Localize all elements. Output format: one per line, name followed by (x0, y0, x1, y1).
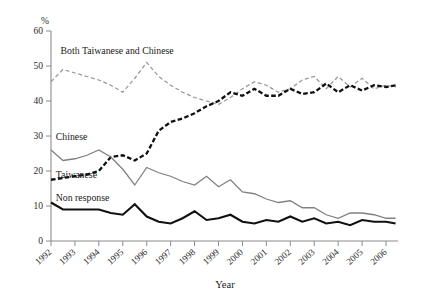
x-tick-group: 1992199319941995199619971998199920002001… (33, 241, 389, 267)
y-tick-group: 0102030405060 (34, 26, 52, 246)
line-chart: 0102030405060 % 199219931994199519961997… (0, 0, 427, 299)
series-line (51, 150, 396, 218)
y-tick-label: 30 (34, 131, 44, 141)
series-annotation-label: Both Taiwanese and Chinese (61, 45, 175, 56)
x-tick-label: 1998 (177, 247, 198, 267)
y-tick-label: 10 (34, 201, 44, 211)
series-line (51, 203, 396, 226)
x-tick-label: 2002 (273, 247, 294, 267)
y-axis-unit-label: % (41, 16, 49, 26)
x-tick-label: 1999 (201, 247, 222, 267)
x-tick-label: 1993 (57, 247, 78, 267)
y-tick-label: 60 (34, 26, 44, 36)
series-annotation-label: Taiwanese (56, 169, 98, 180)
x-tick-label: 2001 (249, 247, 270, 267)
series-line (51, 84, 396, 180)
x-tick-label: 1994 (81, 247, 102, 267)
y-tick-label: 0 (38, 236, 43, 246)
x-tick-label: 1992 (33, 247, 54, 267)
x-tick-label: 1997 (153, 247, 174, 267)
y-tick-label: 50 (34, 61, 44, 71)
chart-container: 0102030405060 % 199219931994199519961997… (0, 0, 427, 299)
x-tick-label: 2003 (296, 247, 317, 267)
x-tick-label: 2005 (344, 247, 365, 267)
annotation-group: Both Taiwanese and ChineseChineseTaiwane… (56, 45, 175, 203)
x-axis: 1992199319941995199619971998199920002001… (33, 241, 398, 290)
y-tick-label: 40 (34, 96, 44, 106)
x-axis-title: Year (215, 279, 235, 290)
series-annotation-label: Chinese (56, 131, 88, 142)
x-tick-label: 2000 (225, 247, 246, 267)
x-tick-label: 1995 (105, 247, 126, 267)
y-tick-label: 20 (34, 166, 44, 176)
x-tick-label: 2004 (320, 247, 341, 267)
series-annotation-label: Non response (56, 192, 110, 203)
x-tick-label: 2006 (368, 247, 389, 267)
x-tick-label: 1996 (129, 247, 150, 267)
y-axis: 0102030405060 % (34, 16, 52, 246)
